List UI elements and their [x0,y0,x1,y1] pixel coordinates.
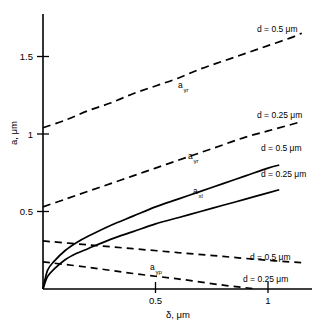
ann-axl-d05: d = 0.5 μm [261,143,302,153]
label-ayr-upper-subscript: γr [184,87,189,93]
label-ayr-upper-base: a [178,80,183,90]
label-ayr-lower-base: a [188,151,193,161]
label-axl-base: a [193,186,198,196]
chart-canvas: 0.511.5 0.51 aγraγraxlaγp d = 0.5 μmd = … [0,0,329,326]
ann-ayp-d025: d = 0.25 μm [243,274,288,284]
y-tick-label-1: 1 [28,129,33,140]
label-ayr-lower-subscript: γr [194,158,199,164]
y-tick-label-0.5: 0.5 [20,206,33,217]
label-axl-subscript: xl [199,193,203,199]
chart-figure: 0.511.5 0.51 aγraγraxlaγp d = 0.5 μmd = … [0,0,329,326]
x-axis-title: δ, μm [166,309,190,320]
x-tick-label-0.5: 0.5 [149,295,162,306]
label-ayp-base: a [150,262,155,272]
y-axis-title: a, μm [8,121,19,145]
ann-ayp-d05: d = 0.5 μm [250,252,291,262]
ann-axl-d025: d = 0.25 μm [261,169,306,179]
x-tick-label-1: 1 [265,295,270,306]
y-tick-label-1.5: 1.5 [20,51,33,62]
label-ayp-subscript: γp [156,269,163,275]
ann-ayr-d025: d = 0.25 μm [257,110,302,120]
ann-ayr-d05: d = 0.5 μm [257,24,298,34]
